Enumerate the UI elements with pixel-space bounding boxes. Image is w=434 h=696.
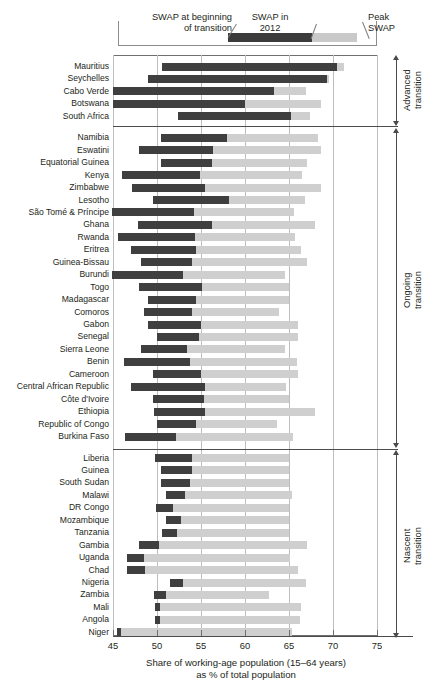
bar-swap-2012 xyxy=(148,321,201,329)
bar-swap-2012 xyxy=(157,333,199,341)
bracket-arrow-down-ongoing xyxy=(393,443,399,448)
bar-peak-swap xyxy=(139,541,307,549)
bar-peak-swap xyxy=(154,591,268,599)
bar-swap-2012 xyxy=(155,616,159,624)
x-tick-label-55: 55 xyxy=(186,640,216,651)
bar-swap-2012 xyxy=(144,308,192,316)
bar-swap-2012 xyxy=(148,296,196,304)
bar-swap-2012 xyxy=(124,358,189,366)
bar-peak-swap xyxy=(162,529,289,537)
bar-swap-2012 xyxy=(131,383,206,391)
bar-swap-2012 xyxy=(112,271,183,279)
bar-swap-2012 xyxy=(113,100,245,108)
bar-swap-2012 xyxy=(166,491,185,499)
legend-swatch-peak-swap xyxy=(312,33,357,42)
bar-swap-2012 xyxy=(166,516,181,524)
bar-swap-2012 xyxy=(139,146,213,154)
bar-swap-2012 xyxy=(161,466,192,474)
x-tick-55 xyxy=(201,630,202,636)
bar-swap-2012 xyxy=(153,395,204,403)
bar-swap-2012 xyxy=(141,258,192,266)
x-tick-45 xyxy=(113,630,114,636)
legend-label-swap-2012: SWAP in 2012 xyxy=(228,12,312,33)
group-separator-advanced xyxy=(113,126,398,127)
bar-swap-2012 xyxy=(118,233,195,241)
bar-swap-2012 xyxy=(178,112,291,120)
bar-swap-2012 xyxy=(131,246,196,254)
x-tick-50 xyxy=(157,630,158,636)
bar-swap-2012 xyxy=(139,283,201,291)
x-tick-label-60: 60 xyxy=(230,640,260,651)
bar-peak-swap xyxy=(166,516,289,524)
legend-label-swap-begin: SWAP at beginning of transition xyxy=(128,12,232,33)
chart-root: SWAP at beginning of transition SWAP in … xyxy=(0,0,434,696)
row-label-niger: Niger xyxy=(0,625,109,639)
bar-row: Burkina Faso xyxy=(0,429,434,443)
bar-swap-2012 xyxy=(125,433,176,441)
bar-swap-2012 xyxy=(162,529,177,537)
bar-swap-2012 xyxy=(112,208,194,216)
bar-swap-2012 xyxy=(170,579,182,587)
x-axis-title: Share of working-age population (15–64 y… xyxy=(86,657,406,680)
x-tick-label-45: 45 xyxy=(98,640,128,651)
bar-swap-2012 xyxy=(113,87,274,95)
x-tick-70 xyxy=(333,630,334,636)
group-label-nascent: Nascent transition xyxy=(402,510,428,582)
bar-swap-2012 xyxy=(153,370,201,378)
bar-swap-2012 xyxy=(154,591,165,599)
bar-swap-2012 xyxy=(157,420,196,428)
bar-swap-2012 xyxy=(161,134,227,142)
x-tick-65 xyxy=(289,630,290,636)
bar-swap-2012 xyxy=(155,454,192,462)
x-tick-60 xyxy=(245,630,246,636)
row-label-burkina-faso: Burkina Faso xyxy=(0,429,109,443)
bar-swap-2012 xyxy=(162,63,337,71)
group-label-advanced: Advanced transition xyxy=(402,57,428,123)
bar-swap-2012 xyxy=(155,603,159,611)
x-tick-label-75: 75 xyxy=(362,640,392,651)
bar-swap-2012 xyxy=(148,75,327,83)
row-label-south-africa: South Africa xyxy=(0,109,109,123)
legend-swatch-swap-2012 xyxy=(228,33,312,42)
bracket-arrow-down-advanced xyxy=(393,121,399,126)
group-label-ongoing: Ongoing transition xyxy=(402,250,428,330)
bar-peak-swap xyxy=(170,579,306,587)
bar-swap-2012 xyxy=(161,479,191,487)
bar-swap-2012 xyxy=(127,566,145,574)
bar-swap-2012 xyxy=(138,221,213,229)
bar-swap-2012 xyxy=(127,554,144,562)
bar-swap-2012 xyxy=(139,541,158,549)
x-axis-title-line2: as % of total population xyxy=(86,669,406,681)
bracket-arrow-up-ongoing xyxy=(393,128,399,133)
legend-label-peak-swap: Peak SWAP xyxy=(368,12,418,33)
x-tick-label-65: 65 xyxy=(274,640,304,651)
x-axis-title-line1: Share of working-age population (15–64 y… xyxy=(86,657,406,669)
x-tick-label-70: 70 xyxy=(318,640,348,651)
group-separator-ongoing xyxy=(113,449,398,450)
bracket-arrow-up-nascent xyxy=(393,450,399,455)
bar-peak-swap xyxy=(127,566,298,574)
bar-row: South Africa xyxy=(0,109,434,123)
bar-swap-2012 xyxy=(156,504,173,512)
bar-swap-2012 xyxy=(122,171,200,179)
bar-swap-2012 xyxy=(141,345,187,353)
bar-swap-2012 xyxy=(161,159,211,167)
x-axis-line xyxy=(113,636,413,637)
bar-swap-2012 xyxy=(153,196,229,204)
bar-swap-2012 xyxy=(132,184,205,192)
bar-swap-2012 xyxy=(154,408,204,416)
x-tick-label-50: 50 xyxy=(142,640,172,651)
bar-peak-swap xyxy=(127,554,290,562)
x-tick-75 xyxy=(377,630,378,636)
bar-peak-swap xyxy=(156,504,289,512)
bar-peak-swap xyxy=(155,603,301,611)
bracket-arrow-up-advanced xyxy=(393,55,399,60)
bar-peak-swap xyxy=(155,616,300,624)
